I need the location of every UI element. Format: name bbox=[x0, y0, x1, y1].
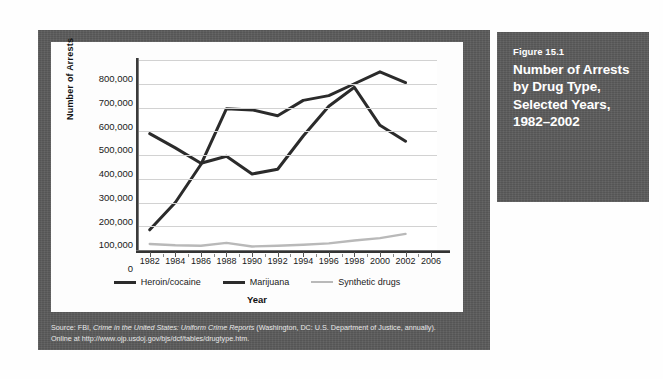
y-axis-tick-label: 0 bbox=[75, 263, 133, 274]
chart-legend: Heroin/cocaineMarijuanaSynthetic drugs bbox=[51, 274, 463, 290]
figure-number: Figure 15.1 bbox=[513, 46, 649, 57]
x-axis-tick-label: 1988 bbox=[216, 256, 236, 266]
x-axis-tick-label: 1992 bbox=[268, 256, 288, 266]
y-axis-tick-label: 200,000 bbox=[75, 215, 133, 226]
y-axis-tick-label: 300,000 bbox=[75, 191, 133, 202]
source-suffix: (Washington, DC: U.S. Department of Just… bbox=[254, 323, 436, 332]
x-axis-tick-label: 2000 bbox=[370, 256, 390, 266]
source-line-1: Source: FBI, Crime in the United States:… bbox=[51, 322, 475, 333]
x-axis-tick-label: 1994 bbox=[293, 256, 313, 266]
x-axis-tick-label: 1990 bbox=[242, 256, 262, 266]
source-note: Source: FBI, Crime in the United States:… bbox=[51, 322, 475, 344]
x-axis-tick-label: 2006 bbox=[421, 256, 441, 266]
legend-item[interactable]: Heroin/cocaine bbox=[114, 277, 201, 287]
x-axis-tick-label: 1982 bbox=[140, 256, 160, 266]
y-axis-line-inner bbox=[136, 58, 138, 252]
gridline bbox=[139, 226, 437, 227]
x-axis-tick-label: 1986 bbox=[191, 256, 211, 266]
gridline bbox=[139, 60, 437, 61]
gridline bbox=[139, 179, 437, 180]
series-line-heroin-cocaine bbox=[150, 72, 406, 230]
y-axis-tick-label: 100,000 bbox=[75, 239, 133, 250]
figure-caption-box: Figure 15.1 Number of Arrests by Drug Ty… bbox=[497, 32, 649, 202]
gridline bbox=[139, 84, 437, 85]
x-axis-tick-label: 1998 bbox=[344, 256, 364, 266]
legend-swatch-icon bbox=[114, 281, 136, 284]
y-axis-tick-label: 800,000 bbox=[75, 73, 133, 84]
x-axis-line-inner bbox=[136, 251, 450, 253]
series-line-synthetic-drugs bbox=[150, 234, 406, 247]
plot-area bbox=[139, 60, 437, 250]
legend-label: Heroin/cocaine bbox=[141, 277, 201, 287]
legend-swatch-icon bbox=[223, 281, 245, 284]
gridline bbox=[139, 108, 437, 109]
x-axis-tick-label: 1984 bbox=[165, 256, 185, 266]
gridline bbox=[139, 131, 437, 132]
figure-page: Number of Arrests 0100,000200,000300,000… bbox=[0, 0, 663, 379]
source-prefix: Source: FBI, bbox=[51, 323, 93, 332]
y-axis-tick-label: 700,000 bbox=[75, 96, 133, 107]
gridline bbox=[139, 155, 437, 156]
y-axis-tick-label: 500,000 bbox=[75, 144, 133, 155]
source-line-2: Online at http://www.ojp.usdoj.gov/bjs/d… bbox=[51, 333, 475, 344]
legend-item[interactable]: Synthetic drugs bbox=[311, 277, 400, 287]
gridline bbox=[139, 203, 437, 204]
legend-label: Synthetic drugs bbox=[338, 277, 400, 287]
figure-title: Number of Arrests by Drug Type, Selected… bbox=[513, 61, 635, 130]
x-axis-tick-labels: 1982198419861988199019921994199619982000… bbox=[139, 256, 453, 270]
legend-swatch-icon bbox=[311, 281, 333, 283]
x-axis-tick-label: 2002 bbox=[396, 256, 416, 266]
y-axis-tick-label: 400,000 bbox=[75, 168, 133, 179]
x-axis-tick-label: 1996 bbox=[319, 256, 339, 266]
x-axis-title: Year bbox=[51, 294, 463, 305]
y-axis-tick-labels: 0100,000200,000300,000400,000500,000600,… bbox=[73, 60, 133, 250]
source-publication-title: Crime in the United States: Uniform Crim… bbox=[93, 323, 254, 332]
chart-card: Number of Arrests 0100,000200,000300,000… bbox=[51, 42, 463, 312]
y-axis-tick-label: 600,000 bbox=[75, 120, 133, 131]
legend-item[interactable]: Marijuana bbox=[223, 277, 290, 287]
plot-area-wrapper: Number of Arrests 0100,000200,000300,000… bbox=[51, 42, 463, 274]
figure-panel: Number of Arrests 0100,000200,000300,000… bbox=[38, 30, 490, 350]
legend-label: Marijuana bbox=[250, 277, 290, 287]
